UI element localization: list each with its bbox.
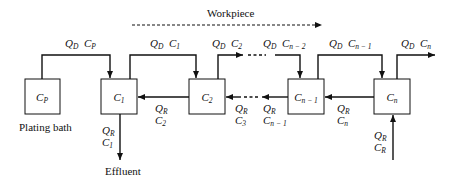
effluent-flow-label: QRC1 xyxy=(102,124,115,148)
effluent-label: Effluent xyxy=(105,165,141,177)
rinse-label-n: QRCn xyxy=(337,102,350,126)
plating-bath-caption: Plating bath xyxy=(19,121,72,133)
dragout-arrow-2-out xyxy=(218,55,243,79)
dragout-arrow-p-to-1 xyxy=(42,55,110,79)
rinse-label-2: QRC2 xyxy=(155,102,168,126)
rinse-label-n-1: QRCn − 1 xyxy=(263,102,287,126)
fresh-rinse-label: QRCR xyxy=(374,129,387,153)
tank-label-rinse-2: C2 xyxy=(189,91,225,103)
tank-label-rinse-n: Cn xyxy=(374,91,410,103)
workpiece-label: Workpiece xyxy=(207,7,254,19)
dragout-label-n-1: QD Cn − 1 xyxy=(329,37,372,49)
tank-label-plating-bath: CP xyxy=(24,91,60,103)
tank-label-rinse-n-1: Cn − 1 xyxy=(288,91,324,103)
dragout-arrow-1-to-2 xyxy=(130,55,196,79)
rinse-label-3: QRC3 xyxy=(235,102,248,126)
dragout-label-n: QD Cn xyxy=(401,37,431,49)
tank-label-rinse-1: C1 xyxy=(101,91,137,103)
dragout-arrow-to-n-1 xyxy=(275,55,300,78)
dragout-label-n-2: QD Cn − 2 xyxy=(263,37,306,49)
dragout-arrow-n-out xyxy=(397,55,435,79)
dragout-label-2: QD C2 xyxy=(212,37,242,49)
dragout-label-p: QD CP xyxy=(65,37,96,49)
dragout-arrow-n-1-to-n xyxy=(318,55,382,79)
dragout-label-1: QD C1 xyxy=(150,37,180,49)
